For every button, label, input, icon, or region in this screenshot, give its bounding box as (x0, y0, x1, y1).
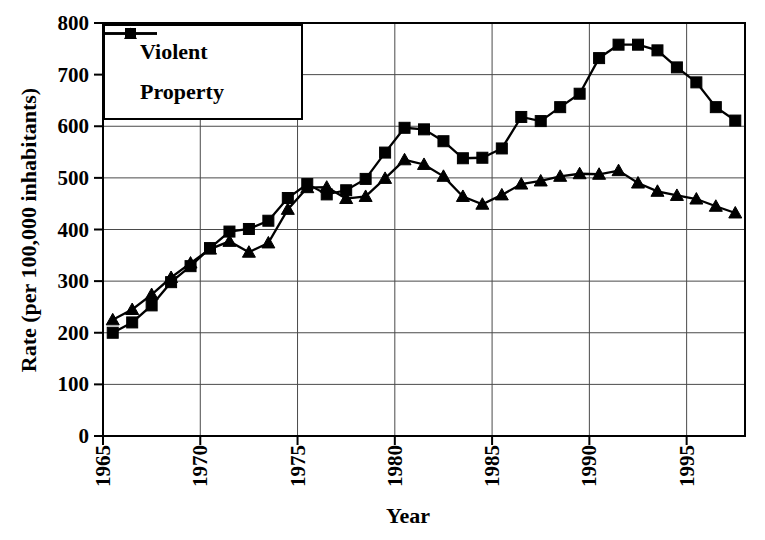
data-point-violent (652, 45, 663, 56)
data-point-violent (671, 62, 682, 73)
data-point-property (398, 153, 411, 165)
data-point-violent (243, 223, 254, 234)
y-tick-label: 500 (58, 166, 90, 190)
y-tick-label: 800 (58, 11, 90, 35)
data-point-property (262, 236, 275, 248)
x-tick-label: 1980 (383, 445, 407, 487)
data-point-property (612, 164, 625, 176)
x-tick-label: 1995 (675, 445, 699, 487)
x-axis-title: Year (88, 503, 728, 529)
data-point-violent (574, 88, 585, 99)
data-point-violent (457, 153, 468, 164)
data-point-violent (613, 39, 624, 50)
data-point-violent (419, 124, 430, 135)
data-point-violent (360, 173, 371, 184)
y-axis-title: Rate (per 100,000 inhabitants) (16, 88, 42, 372)
data-point-property (106, 313, 119, 325)
data-point-violent (496, 143, 507, 154)
legend-item-property: Property (131, 79, 301, 105)
data-point-violent (691, 77, 702, 88)
y-tick-label: 300 (58, 269, 90, 293)
y-tick-label: 100 (58, 372, 90, 396)
y-tick-label: 0 (79, 424, 90, 448)
x-tick-label: 1970 (188, 445, 212, 487)
y-tick-label: 200 (58, 321, 90, 345)
x-tick-label: 1990 (577, 445, 601, 487)
data-point-violent (535, 116, 546, 127)
data-point-violent (107, 327, 118, 338)
x-tick-label: 1985 (480, 445, 504, 487)
legend-item-violent: Violent (131, 39, 301, 65)
legend-label-violent: Violent (140, 39, 208, 65)
data-point-violent (477, 152, 488, 163)
data-point-property (495, 188, 508, 200)
data-point-violent (516, 111, 527, 122)
data-point-violent (380, 147, 391, 158)
data-point-property (242, 246, 255, 258)
data-point-violent (555, 102, 566, 113)
x-tick-label: 1965 (91, 445, 115, 487)
y-tick-label: 700 (58, 63, 90, 87)
data-point-violent (594, 53, 605, 64)
x-tick-label: 1975 (286, 445, 310, 487)
legend: Violent Property (103, 24, 303, 120)
legend-label-property: Property (140, 79, 224, 105)
data-point-property (437, 170, 450, 182)
data-point-violent (127, 317, 138, 328)
y-tick-label: 400 (58, 218, 90, 242)
data-point-violent (146, 300, 157, 311)
data-point-violent (710, 102, 721, 113)
data-point-violent (399, 122, 410, 133)
data-point-violent (438, 136, 449, 147)
data-point-violent (263, 215, 274, 226)
data-point-violent (730, 115, 741, 126)
crime-rate-chart: 0100200300400500600700800196519701975198… (0, 0, 765, 540)
y-tick-label: 600 (58, 114, 90, 138)
triangle-marker-icon (105, 26, 157, 41)
data-point-violent (633, 39, 644, 50)
